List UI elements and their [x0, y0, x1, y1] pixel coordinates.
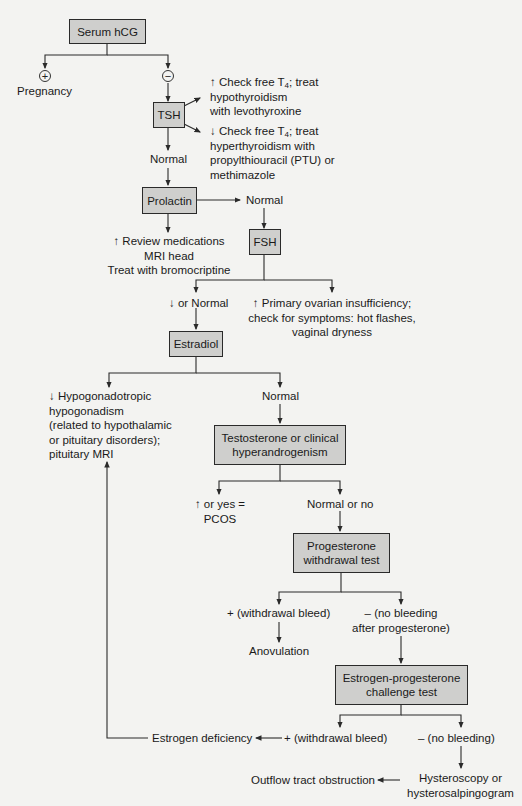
fsh-high-text: ↑ Primary ovarian insufficiency; — [253, 297, 411, 309]
pregnancy-label: Pregnancy — [17, 84, 72, 99]
hysteroscopy-label: Hysteroscopy or hysterosalpingogram — [403, 771, 518, 800]
ep-positive-label: + (withdrawal bleed) — [284, 731, 387, 746]
tsh-low-text: propylthiouracil (PTU) or — [210, 154, 335, 166]
tsh-low-text: hyperthyroidism with — [210, 140, 315, 152]
prolactin-label: Prolactin — [147, 194, 192, 208]
fsh-box[interactable]: FSH — [249, 229, 281, 255]
ep-label-line2: challenge test — [366, 685, 437, 699]
testosterone-normal-label: Normal or no — [307, 497, 373, 512]
prolactin-high-text: ↑ Review medications — [113, 235, 224, 247]
fsh-high-text: vaginal dryness — [292, 326, 372, 338]
progesterone-negative-label: – (no bleeding after progesterone) — [345, 606, 457, 635]
tsh-high-text: with levothyroxine — [210, 105, 301, 117]
tsh-high-text: ; treat — [289, 76, 318, 88]
estradiol-low-label: ↓ Hypogonadotropic hypogonadism (related… — [49, 389, 172, 462]
progesterone-negative-text: after progesterone) — [352, 622, 450, 634]
prolactin-high-label: ↑ Review medications MRI head Treat with… — [105, 234, 233, 278]
prolactin-high-text: MRI head — [144, 250, 194, 262]
fsh-low-normal-label: ↓ or Normal — [169, 296, 228, 311]
tsh-box[interactable]: TSH — [153, 102, 185, 128]
tsh-low-text: methimazole — [210, 169, 275, 181]
testosterone-box[interactable]: Testosterone or clinical hyperandrogenis… — [214, 425, 346, 465]
testosterone-high-text: ↑ or yes = — [195, 498, 245, 510]
estradiol-normal-label: Normal — [262, 389, 299, 404]
tsh-label: TSH — [158, 108, 181, 122]
tsh-normal-label: Normal — [150, 152, 187, 167]
serum-hcg-label: Serum hCG — [77, 25, 138, 39]
progesterone-label-line2: withdrawal test — [303, 553, 379, 567]
estradiol-low-text: (related to hypothalamic — [49, 419, 172, 431]
progesterone-label-line1: Progesterone — [307, 539, 376, 553]
progesterone-negative-text: – (no bleeding — [365, 607, 438, 619]
progesterone-withdrawal-box[interactable]: Progesterone withdrawal test — [293, 533, 390, 573]
testosterone-label-line1: Testosterone or clinical — [222, 431, 339, 445]
tsh-low-text: ; treat — [289, 125, 318, 137]
tsh-low-label: ↓ Check free T4; treat hyperthyroidism w… — [210, 124, 335, 182]
amenorrhea-workup-flowchart: Serum hCG TSH Prolactin FSH Estradiol Te… — [0, 0, 522, 806]
tsh-high-text: ↑ Check free T — [210, 76, 285, 88]
estrogen-deficiency-label: Estrogen deficiency — [152, 731, 252, 746]
tsh-high-text: hypothyroidism — [210, 91, 287, 103]
fsh-high-label: ↑ Primary ovarian insufficiency; check f… — [247, 296, 417, 340]
testosterone-high-label: ↑ or yes = PCOS — [190, 497, 250, 526]
ep-negative-label: – (no bleeding) — [418, 731, 495, 746]
prolactin-high-text: Treat with bromocriptine — [108, 264, 231, 276]
testosterone-label-line2: hyperandrogenism — [232, 445, 327, 459]
hysteroscopy-text: Hysteroscopy or — [419, 772, 502, 784]
prolactin-normal-label: Normal — [246, 193, 283, 208]
estradiol-low-text: pituitary MRI — [49, 448, 114, 460]
negative-sign-icon: − — [162, 70, 174, 82]
anovulation-label: Anovulation — [249, 644, 309, 659]
estrogen-progesterone-box[interactable]: Estrogen-progesterone challenge test — [335, 665, 468, 705]
outflow-obstruction-label: Outflow tract obstruction — [251, 773, 375, 788]
testosterone-high-text: PCOS — [204, 513, 237, 525]
ep-label-line1: Estrogen-progesterone — [343, 671, 461, 685]
estradiol-low-text: ↓ Hypogonadotropic — [49, 390, 151, 402]
estradiol-low-text: or pituitary disorders); — [49, 434, 160, 446]
estradiol-label: Estradiol — [174, 337, 219, 351]
tsh-high-label: ↑ Check free T4; treat hypothyroidism wi… — [210, 75, 318, 119]
hysteroscopy-text: hysterosalpingogram — [407, 787, 514, 799]
prolactin-box[interactable]: Prolactin — [142, 187, 197, 214]
fsh-label: FSH — [254, 235, 277, 249]
estradiol-low-text: hypogonadism — [49, 405, 124, 417]
tsh-low-text: ↓ Check free T — [210, 125, 285, 137]
progesterone-positive-label: + (withdrawal bleed) — [227, 606, 330, 621]
estradiol-box[interactable]: Estradiol — [169, 331, 223, 357]
positive-sign-icon: + — [39, 70, 51, 82]
fsh-high-text: check for symptoms: hot flashes, — [248, 312, 415, 324]
serum-hcg-box[interactable]: Serum hCG — [69, 19, 146, 44]
